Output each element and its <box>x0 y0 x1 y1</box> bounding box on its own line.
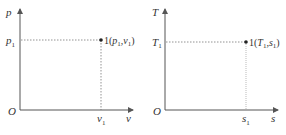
s-axis-label: s <box>271 112 275 124</box>
state-point-1 <box>99 38 103 42</box>
v-axis-label: v <box>126 112 131 124</box>
p-axis-label: p <box>5 6 12 18</box>
point-1-label: 1(p1,v1) <box>104 35 135 48</box>
T1-tick-label: T1 <box>152 36 162 50</box>
point-1-label: 1(T1,s1) <box>249 37 280 50</box>
ts-diagram: T T1 O s1 s 1(T1,s1) <box>152 6 280 127</box>
v1-tick-label: v1 <box>97 112 106 127</box>
origin-label: O <box>153 105 161 117</box>
s1-tick-label: s1 <box>242 112 250 127</box>
pv-diagram: p p1 O v1 v 1(p1,v1) <box>5 6 135 127</box>
T-axis-label: T <box>152 6 159 18</box>
state-point-1 <box>244 40 248 44</box>
origin-label: O <box>8 105 16 117</box>
state-diagrams: p p1 O v1 v 1(p1,v1) T T1 O s1 s 1(T1,s1… <box>0 0 286 135</box>
p1-tick-label: p1 <box>5 34 16 49</box>
